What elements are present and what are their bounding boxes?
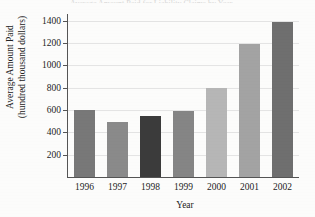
y-axis-tick [63,132,67,133]
y-axis-tick [63,43,67,44]
x-axis-title: Year [55,200,315,210]
bars-group [68,14,299,177]
bar-1999 [173,111,193,177]
bar-2001 [239,44,259,177]
x-axis-tick-label-2001: 2001 [240,182,259,192]
x-axis-tick-label-1998: 1998 [141,182,160,192]
bar-1996 [74,110,94,177]
x-axis-tick-label-2000: 2000 [207,182,226,192]
bar-fill [206,88,226,177]
y-axis-tick [63,88,67,89]
y-axis-title-line2: (hundred thousand dollars) [17,0,29,147]
x-axis-tick-label-1996: 1996 [75,182,94,192]
y-axis-tick-label: 1400 [42,16,61,26]
y-axis-tick-label: 1200 [42,38,61,48]
y-axis-tick-label: 400 [47,127,61,137]
bar-2000 [206,88,226,177]
bar-1997 [107,122,127,177]
bar-fill [107,122,127,177]
cut-off-title: Average Amount Paid for Liability Claims… [70,0,250,3]
x-axis-tick-label-1999: 1999 [174,182,193,192]
bar-fill [140,116,160,177]
plot-area: 200400600800100012001400 199619971998199… [67,14,299,178]
x-axis-tick-label-2002: 2002 [273,182,292,192]
y-axis-tick-label: 200 [47,150,61,160]
y-axis-tick [63,110,67,111]
y-axis-tick [63,21,67,22]
bar-chart-figure: Average Amount Paid for Liability Claims… [0,0,315,217]
y-axis-tick-label: 800 [47,83,61,93]
bar-1998 [140,116,160,177]
x-axis-line [67,177,299,178]
y-axis-title-line1: Average Amount Paid [5,0,17,147]
bar-fill [173,111,193,177]
y-axis-tick-label: 1000 [42,60,61,70]
bar-fill [239,44,259,177]
y-axis-tick-label: 600 [47,105,61,115]
x-axis-tick-label-1997: 1997 [108,182,127,192]
bar-fill [272,22,292,177]
y-axis-title: Average Amount Paid (hundred thousand do… [5,0,35,147]
bar-fill [74,110,94,177]
bar-2002 [272,22,292,177]
y-axis-tick [63,155,67,156]
y-axis-tick [63,65,67,66]
